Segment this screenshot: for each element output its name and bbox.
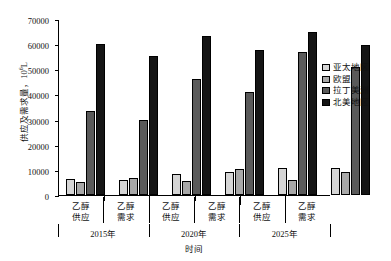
y-axis-tick-label: 50000 — [28, 66, 49, 76]
y-axis-tick-label: 30000 — [28, 117, 49, 127]
bar-欧盟 — [182, 181, 191, 195]
legend-swatch-icon — [322, 87, 330, 94]
category-label-line2: 供应 — [58, 212, 103, 223]
bar-北美地区 — [255, 50, 264, 195]
y-axis-title-exponent: 6 — [18, 67, 24, 70]
bar-group — [218, 20, 271, 195]
bar-北美地区 — [308, 32, 317, 195]
bar-group — [112, 20, 165, 195]
category-label: 乙醇需求 — [285, 197, 330, 227]
category-separator — [239, 197, 240, 223]
year-separator — [239, 224, 240, 237]
legend-item-亚太地区: 亚太地区 — [322, 62, 369, 74]
legend-item-北美地区: 北美地区 — [322, 97, 369, 109]
category-label-line1: 乙醇 — [253, 201, 271, 211]
y-axis-tick-label: 0 — [45, 192, 49, 202]
bar-亚太地区 — [225, 172, 234, 195]
y-axis-tick-label: 10000 — [28, 167, 49, 177]
category-separator — [285, 197, 286, 223]
bar-拉丁美洲 — [86, 111, 95, 195]
bar-北美地区 — [202, 36, 211, 195]
y-axis-tick-label: 40000 — [28, 91, 49, 101]
bar-亚太地区 — [278, 168, 287, 195]
category-label-line1: 乙醇 — [208, 201, 226, 211]
legend-label: 拉丁美洲 — [333, 85, 369, 97]
bar-group — [165, 20, 218, 195]
year-label: 2025年 — [239, 227, 330, 241]
year-label: 2015年 — [58, 227, 149, 241]
y-axis-tick-label: 70000 — [28, 16, 49, 26]
bar-拉丁美洲 — [245, 92, 254, 195]
category-label: 乙醇供应 — [149, 197, 194, 227]
category-labels: 乙醇供应乙醇需求乙醇供应乙醇需求乙醇供应乙醇需求 — [58, 197, 330, 227]
x-axis-title: 时间 — [58, 242, 330, 254]
category-label-line2: 需求 — [103, 212, 148, 223]
bar-北美地区 — [149, 56, 158, 195]
bar-欧盟 — [341, 172, 350, 195]
group-year-labels: 2015年2020年2025年 — [58, 227, 330, 241]
category-label: 乙醇需求 — [194, 197, 239, 227]
bar-group — [59, 20, 112, 195]
bar-北美地区 — [96, 44, 105, 195]
bar-group — [271, 20, 324, 195]
category-label-line2: 需求 — [194, 212, 239, 223]
bar-欧盟 — [76, 182, 85, 195]
legend-label: 北美地区 — [333, 97, 369, 109]
bar-亚太地区 — [66, 179, 75, 195]
bar-欧盟 — [235, 169, 244, 195]
year-separator — [149, 224, 150, 237]
legend-label: 欧盟 — [333, 74, 351, 86]
year-separator — [330, 224, 331, 237]
category-separator — [194, 197, 195, 223]
category-label-line2: 需求 — [285, 212, 330, 223]
year-label: 2020年 — [149, 227, 240, 241]
category-label-line2: 供应 — [149, 212, 194, 223]
category-label-line1: 乙醇 — [117, 201, 135, 211]
bar-拉丁美洲 — [298, 52, 307, 195]
legend-swatch-icon — [322, 76, 330, 83]
bar-亚太地区 — [119, 180, 128, 195]
bar-亚太地区 — [331, 168, 340, 195]
category-label: 乙醇需求 — [103, 197, 148, 227]
year-separator — [58, 224, 59, 237]
plot-area: 010000200003000040000500006000070000 — [58, 20, 330, 196]
y-axis-tick-label: 20000 — [28, 142, 49, 152]
legend-swatch-icon — [322, 99, 330, 106]
category-label-line1: 乙醇 — [298, 201, 316, 211]
category-label-line1: 乙醇 — [162, 201, 180, 211]
category-label-line2: 供应 — [239, 212, 284, 223]
bar-亚太地区 — [172, 174, 181, 195]
category-label: 乙醇供应 — [239, 197, 284, 227]
category-separator — [149, 197, 150, 223]
legend: 亚太地区欧盟拉丁美洲北美地区 — [322, 62, 369, 108]
category-label-line1: 乙醇 — [72, 201, 90, 211]
legend-item-欧盟: 欧盟 — [322, 74, 369, 86]
year-label-text: 2015年 — [90, 229, 116, 239]
y-axis-title-text: 供应及需求量，10 — [19, 70, 29, 142]
legend-item-拉丁美洲: 拉丁美洲 — [322, 85, 369, 97]
legend-swatch-icon — [322, 64, 330, 71]
bar-groups — [59, 20, 330, 195]
y-axis-tick-label: 60000 — [28, 41, 49, 51]
bar-拉丁美洲 — [139, 120, 148, 195]
bar-欧盟 — [288, 180, 297, 195]
category-label: 乙醇供应 — [58, 197, 103, 227]
category-separator — [103, 197, 104, 223]
bar-欧盟 — [129, 178, 138, 195]
legend-label: 亚太地区 — [333, 62, 369, 74]
bar-拉丁美洲 — [192, 79, 201, 195]
ethanol-supply-demand-bar-chart: 供应及需求量，106L 0100002000030000400005000060… — [0, 0, 391, 261]
year-label-text: 2020年 — [181, 229, 207, 239]
year-label-text: 2025年 — [272, 229, 298, 239]
